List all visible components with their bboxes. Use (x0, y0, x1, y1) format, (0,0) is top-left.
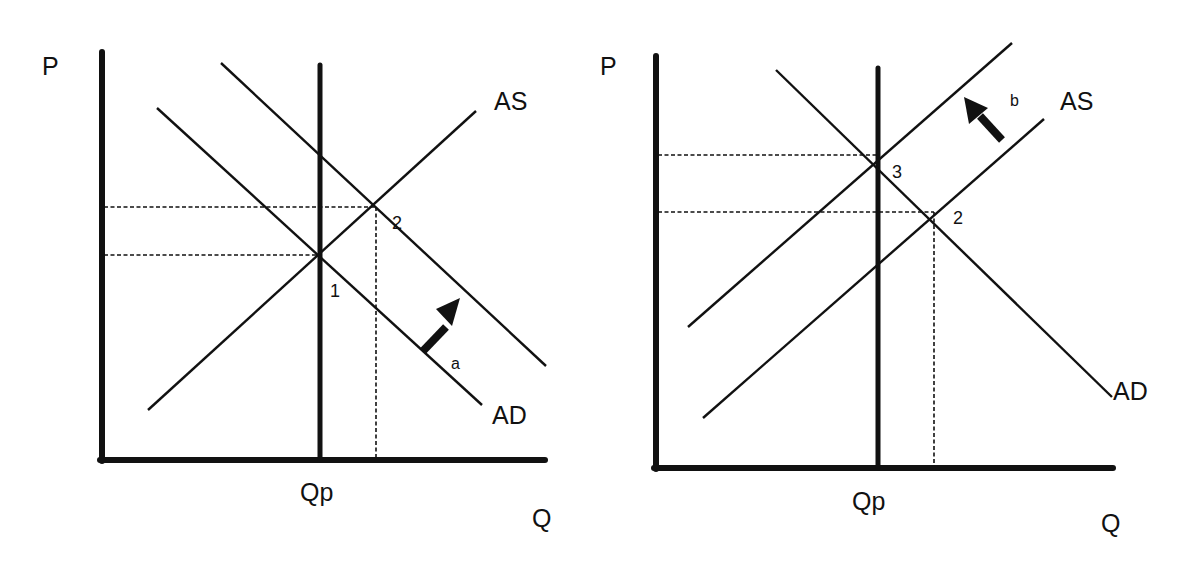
left-as-curve (148, 111, 476, 410)
right-panel: P AS AD Qp Q 3 2 b (600, 43, 1148, 537)
right-q-label: Q (1101, 509, 1120, 537)
right-shift-b-label: b (1010, 92, 1019, 109)
left-panel: P AS AD Qp Q 1 2 a (42, 52, 551, 532)
left-point-2-label: 2 (392, 213, 402, 233)
left-q-label: Q (532, 504, 551, 532)
right-point-3-label: 3 (892, 162, 902, 182)
left-qp-label: Qp (300, 478, 333, 506)
left-p-label: P (42, 52, 59, 80)
right-ad-curve (776, 70, 1112, 397)
left-shift-a-label: a (451, 355, 460, 372)
right-ad-label: AD (1113, 377, 1148, 405)
left-point-1-label: 1 (330, 281, 340, 301)
arrow-a-icon (423, 298, 460, 351)
right-as-label: AS (1060, 87, 1093, 115)
right-qp-label: Qp (852, 487, 885, 515)
right-p-label: P (600, 52, 617, 80)
arrow-b-icon (964, 97, 1002, 140)
right-as-shifted-curve (688, 43, 1012, 327)
ad-as-diagram: P AS AD Qp Q 1 2 a P AS AD Qp Q 3 (0, 0, 1198, 563)
right-point-2-label: 2 (953, 208, 963, 228)
left-as-label: AS (494, 87, 527, 115)
left-ad-label: AD (492, 401, 527, 429)
